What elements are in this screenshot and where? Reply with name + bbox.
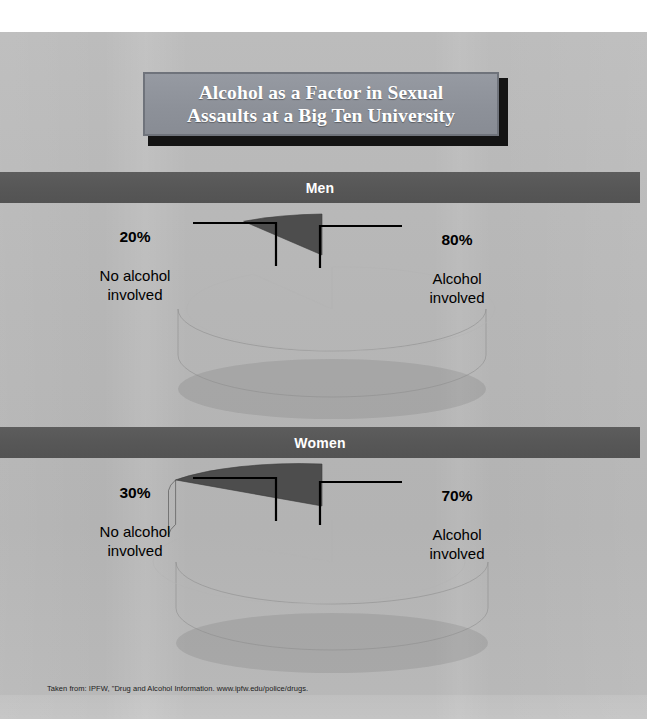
paper-bottom-band (0, 695, 647, 719)
callout-men-no-alcohol-description: No alcohol involved (60, 266, 210, 304)
section-header-women-label: Women (294, 435, 345, 451)
poster-canvas: Alcohol as a Factor in Sexual Assaults a… (0, 0, 647, 719)
section-header-men: Men (0, 172, 640, 203)
callout-women-alcohol: 70% Alcohol involved (382, 467, 532, 583)
pie-men-slice-no-alcohol-side (241, 221, 244, 228)
source-attribution: Taken from: IPFW, "Drug and Alcohol Info… (47, 684, 308, 693)
callout-men-no-alcohol-percent: 20% (60, 227, 210, 247)
section-header-women: Women (0, 427, 640, 458)
callout-women-alcohol-percent: 70% (382, 486, 532, 506)
title-plate-face: Alcohol as a Factor in Sexual Assaults a… (143, 72, 499, 136)
callout-women-no-alcohol-description: No alcohol involved (60, 522, 210, 560)
callout-men-alcohol: 80% Alcohol involved (382, 211, 532, 327)
callout-men-alcohol-percent: 80% (382, 230, 532, 250)
callout-women-alcohol-description: Alcohol involved (382, 525, 532, 563)
page-title: Alcohol as a Factor in Sexual Assaults a… (187, 81, 455, 127)
callout-women-no-alcohol: 30% No alcohol involved (60, 464, 210, 580)
callout-men-no-alcohol: 20% No alcohol involved (60, 208, 210, 324)
pie-men-slice-no-alcohol-top (244, 214, 322, 255)
callout-men-alcohol-description: Alcohol involved (382, 269, 532, 307)
poster-title-plate: Alcohol as a Factor in Sexual Assaults a… (143, 72, 503, 140)
section-header-men-label: Men (306, 180, 335, 196)
callout-women-no-alcohol-percent: 30% (60, 483, 210, 503)
